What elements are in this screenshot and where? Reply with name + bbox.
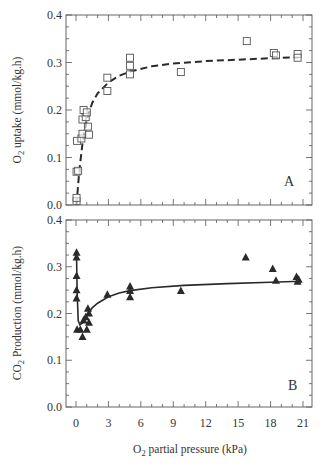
data-point-square	[127, 62, 134, 69]
data-point-square	[127, 71, 134, 78]
panel-b-y-axis-title: CO2 Production (mmol/kg.h)	[11, 246, 26, 380]
data-point-triangle	[177, 287, 185, 295]
panel-a-y-tick-labels: 0.00.10.20.30.4	[47, 8, 62, 212]
data-point-square	[243, 38, 250, 45]
y-tick-label: 0.2	[47, 103, 62, 117]
data-point-square	[85, 131, 92, 138]
panel-b-letter: B	[288, 378, 297, 393]
data-point-square	[294, 54, 301, 61]
xlabel-main: O	[133, 443, 141, 455]
x-tick-label: 6	[138, 416, 144, 430]
panel-b-ylabel-rest: Production (mmol/kg.h)	[11, 246, 24, 360]
chart-figure: 0.00.10.20.30.4 A O2 uptake (mmol/kg.h) …	[0, 0, 322, 465]
data-point-triangle	[78, 332, 86, 340]
data-point-square	[84, 123, 91, 130]
y-tick-label: 0.3	[47, 260, 62, 274]
x-tick-label: 3	[105, 416, 111, 430]
panel-a-frame	[66, 15, 312, 205]
x-tick-label: 12	[200, 416, 212, 430]
data-point-triangle	[73, 294, 81, 302]
panel-b-y-tick-labels: 0.00.10.20.30.4	[47, 213, 62, 414]
x-axis-title: O2 partial pressure (kPa)	[133, 443, 247, 458]
data-point-square	[79, 130, 86, 137]
y-tick-label: 0.4	[47, 8, 62, 22]
panel-b-ticks	[66, 220, 312, 407]
y-tick-label: 0.3	[47, 56, 62, 70]
y-tick-label: 0.4	[47, 213, 62, 227]
x-tick-label: 21	[297, 416, 309, 430]
data-point-triangle	[272, 276, 280, 284]
y-tick-label: 0.1	[47, 353, 62, 367]
data-point-square	[73, 194, 80, 201]
data-point-square	[272, 52, 279, 59]
y-tick-label: 0.0	[47, 198, 62, 212]
data-point-triangle	[242, 253, 250, 261]
panel-a-letter: A	[284, 174, 295, 189]
x-tick-label: 18	[265, 416, 277, 430]
data-point-square	[104, 74, 111, 81]
panel-a-ylabel-main: O	[11, 155, 23, 163]
panel-b-data-points	[73, 248, 303, 340]
panel-b-x-tick-labels: 036912151821	[73, 416, 309, 430]
x-tick-label: 15	[232, 416, 244, 430]
data-point-triangle	[269, 265, 277, 273]
y-tick-label: 0.2	[47, 307, 62, 321]
y-tick-label: 0.1	[47, 151, 62, 165]
panel-a-o2-uptake: 0.00.10.20.30.4 A O2 uptake (mmol/kg.h)	[11, 8, 312, 212]
data-point-square	[83, 109, 90, 116]
data-point-square	[127, 54, 134, 61]
data-point-square	[177, 69, 184, 76]
panel-b-fit-curve-solid	[77, 253, 301, 325]
xlabel-rest: partial pressure (kPa)	[146, 443, 247, 456]
data-point-square	[104, 88, 111, 95]
panel-b-co2-production: 0.00.10.20.30.4 036912151821 B CO2 Produ…	[11, 213, 312, 430]
data-point-triangle	[103, 290, 111, 298]
y-tick-label: 0.0	[47, 400, 62, 414]
panel-a-y-axis-title: O2 uptake (mmol/kg.h)	[11, 56, 26, 163]
x-tick-label: 9	[170, 416, 176, 430]
panel-b-frame	[66, 220, 312, 407]
panel-a-ylabel-rest: uptake (mmol/kg.h)	[11, 56, 24, 150]
data-point-triangle	[84, 304, 92, 312]
data-point-triangle	[83, 325, 91, 333]
panel-b-ylabel-main: CO	[11, 364, 23, 380]
data-point-square	[75, 167, 82, 174]
x-tick-label: 0	[73, 416, 79, 430]
panel-a-ticks	[66, 15, 312, 205]
data-point-triangle	[73, 286, 81, 294]
data-point-triangle	[73, 272, 81, 280]
